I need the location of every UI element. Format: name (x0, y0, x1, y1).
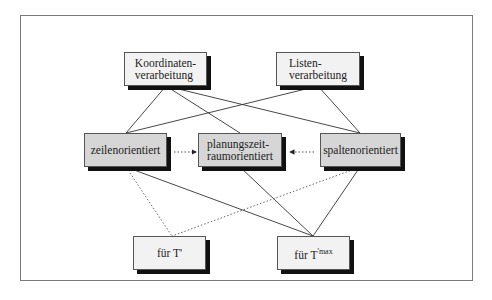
node-listen-line1: Listen- (289, 57, 347, 69)
edge-zeilen-t1 (126, 167, 172, 236)
node-planungszeitraumorientiert: planungszeit- raumorientiert (198, 133, 282, 167)
edge-spalten-tmax (313, 167, 360, 236)
edge-koordinaten-spalten (166, 86, 360, 133)
node-fuer-t-prime: für T' (133, 236, 206, 270)
node-spaltenorientiert: spaltenorientiert (320, 133, 401, 167)
edge-listen-spalten (318, 86, 360, 133)
node-planung-line2: raumorientiert (207, 150, 273, 162)
node-spalten-label: spaltenorientiert (323, 144, 398, 156)
edge-planung-tmax (240, 167, 313, 236)
node-koordinatenverarbeitung: Koordinaten- verarbeitung (124, 52, 207, 86)
node-fuer-t-max: für T'max (277, 236, 350, 270)
edge-koordinaten-planung (166, 86, 240, 133)
edge-zeilen-tmax (126, 167, 313, 236)
node-t1-label: für T' (157, 247, 182, 259)
edge-listen-zeilen (126, 86, 318, 133)
node-koordinaten-line1: Koordinaten- (135, 57, 196, 69)
edge-spalten-t1 (172, 167, 360, 236)
node-planung-line1: planungszeit- (207, 138, 273, 150)
node-listen-line2: verarbeitung (289, 69, 347, 81)
node-zeilenorientiert: zeilenorientiert (84, 133, 167, 167)
edge-koordinaten-zeilen (126, 86, 166, 133)
node-tmax-sup: 'max (317, 247, 332, 256)
node-zeilen-label: zeilenorientiert (91, 144, 161, 156)
node-listenverarbeitung: Listen- verarbeitung (276, 52, 360, 86)
node-koordinaten-line2: verarbeitung (135, 69, 196, 81)
node-tmax-label: für T (294, 248, 317, 260)
